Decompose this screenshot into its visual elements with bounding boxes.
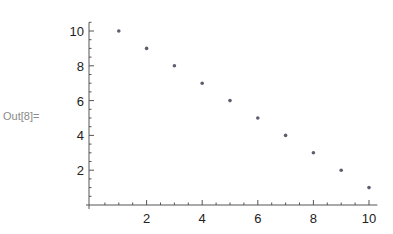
y-tick-label: 8 <box>77 59 84 74</box>
data-point <box>284 134 288 138</box>
scatter-plot: 246810246810 <box>0 0 393 234</box>
x-tick-label: 2 <box>143 211 150 226</box>
plot-axes <box>86 22 377 209</box>
y-tick-label: 4 <box>77 128 84 143</box>
y-tick-label: 6 <box>77 94 84 109</box>
x-tick-label: 4 <box>199 211 206 226</box>
data-point <box>173 64 177 68</box>
data-point <box>117 29 121 33</box>
axis-ticks <box>89 22 369 205</box>
x-tick-label: 10 <box>362 211 376 226</box>
data-point <box>200 81 204 85</box>
x-tick-label: 8 <box>310 211 317 226</box>
data-points <box>117 29 371 189</box>
data-point <box>312 151 316 155</box>
data-point <box>256 116 260 120</box>
data-point <box>339 168 343 172</box>
data-point <box>145 47 149 51</box>
x-tick-label: 6 <box>254 211 261 226</box>
data-point <box>228 99 232 103</box>
y-tick-label: 2 <box>77 163 84 178</box>
tick-labels: 246810246810 <box>70 24 377 226</box>
y-tick-label: 10 <box>70 24 84 39</box>
data-point <box>367 186 371 190</box>
